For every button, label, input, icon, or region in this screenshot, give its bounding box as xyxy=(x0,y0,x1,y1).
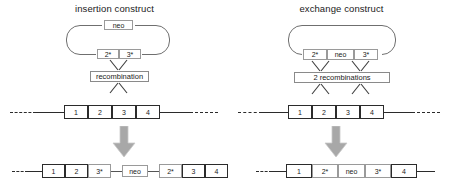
result-linker-left-insertion xyxy=(111,171,122,172)
locus-left-flank-dashed-exchange xyxy=(238,112,262,113)
down-arrow-icon-insertion xyxy=(110,126,138,158)
result-right-line-exchange xyxy=(417,171,435,172)
construct-element-2star-insertion: 2* xyxy=(97,49,119,59)
process-label-2-recombinations: 2 recombinations xyxy=(294,72,390,83)
result-element-3star-insertion: 3* xyxy=(88,164,111,178)
panel-title-insertion: insertion construct xyxy=(0,3,227,14)
construct-element-2star-exchange: 2* xyxy=(303,49,327,60)
construct-element-3star-insertion: 3* xyxy=(119,49,141,59)
result-element-2star-exchange: 2* xyxy=(312,164,338,178)
construct-element-neo-exchange: neo xyxy=(327,49,354,60)
result-element-2star-insertion: 2* xyxy=(159,164,182,178)
down-arrow-icon-exchange xyxy=(322,126,350,158)
result-element-1-insertion: 1 xyxy=(42,164,65,178)
panel-title-exchange: exchange construct xyxy=(228,3,455,14)
crossover-lower-right-exchange xyxy=(350,84,372,95)
locus-left-flank-dashed-insertion xyxy=(10,112,36,113)
locus-element-3-exchange: 3 xyxy=(336,105,360,119)
result-element-4-insertion: 4 xyxy=(205,164,228,178)
result-left-line-insertion xyxy=(28,171,42,172)
locus-right-flank-dashed-insertion xyxy=(190,112,218,113)
result-element-2-insertion: 2 xyxy=(65,164,88,178)
locus-element-1-exchange: 1 xyxy=(288,105,312,119)
crossover-upper-right-exchange xyxy=(350,61,372,72)
locus-left-line-insertion xyxy=(36,112,64,113)
result-element-neo-insertion: neo xyxy=(122,165,148,177)
result-element-3-insertion: 3 xyxy=(182,164,205,178)
locus-element-3-insertion: 3 xyxy=(112,105,136,119)
result-element-neo-exchange: neo xyxy=(338,164,365,178)
crossover-lower-left-exchange xyxy=(310,84,332,95)
construct-element-3star-exchange: 3* xyxy=(354,49,378,60)
process-label-recombination: recombination xyxy=(90,71,149,82)
locus-element-2-insertion: 2 xyxy=(88,105,112,119)
panel-insertion-construct: insertion construct neo 2* 3* recombinat… xyxy=(0,0,227,191)
crossover-upper-left-exchange xyxy=(310,61,332,72)
result-element-4-exchange: 4 xyxy=(391,164,417,178)
result-left-flank-dashed-exchange xyxy=(256,171,272,172)
crossover-upper-insertion xyxy=(108,60,130,71)
construct-element-neo-insertion: neo xyxy=(104,20,133,30)
locus-right-flank-dashed-exchange xyxy=(412,112,440,113)
locus-left-line-exchange xyxy=(262,112,288,113)
result-element-3star-exchange: 3* xyxy=(365,164,391,178)
locus-right-line-exchange xyxy=(384,112,412,113)
crossover-lower-insertion xyxy=(108,83,130,94)
locus-element-2-exchange: 2 xyxy=(312,105,336,119)
locus-element-1-insertion: 1 xyxy=(64,105,88,119)
result-left-flank-dashed-insertion xyxy=(12,171,28,172)
result-linker-right-insertion xyxy=(148,171,159,172)
locus-element-4-insertion: 4 xyxy=(136,105,160,119)
locus-element-4-exchange: 4 xyxy=(360,105,384,119)
locus-right-line-insertion xyxy=(160,112,190,113)
panel-exchange-construct: exchange construct 2* neo 3* 2 recombina… xyxy=(228,0,455,191)
result-element-1-exchange: 1 xyxy=(286,164,312,178)
result-left-line-exchange xyxy=(272,171,286,172)
